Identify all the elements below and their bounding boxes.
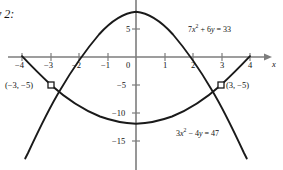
y-tick-label-neg15: −15 [112, 137, 125, 146]
point-marker-right [218, 82, 224, 88]
x-tick-label-1: 1 [163, 61, 167, 70]
x-tick-label-neg2: −2 [72, 61, 81, 70]
point-label-left: (−3, −5) [5, 81, 33, 90]
eq2-tail: = 47 [203, 129, 220, 138]
eq1-tail: = 33 [215, 25, 232, 34]
text-fragment: y 2: [0, 8, 14, 20]
point-marker-left [48, 82, 54, 88]
x-tick-label-2: 2 [191, 61, 195, 70]
y-tick-label-5: 5 [126, 25, 130, 34]
figure-canvas: y 2: −4 −3 −2 −1 0 1 2 3 4 x 5 −5 −10 −1… [0, 0, 283, 170]
x-axis-arrow [264, 53, 272, 60]
x-tick-label-neg4: −4 [15, 61, 24, 70]
eq2-mid: − 4 [186, 129, 199, 138]
x-tick-label-neg3: −3 [44, 61, 53, 70]
x-axis-label: x [272, 60, 276, 69]
x-tick-label-neg1: −1 [101, 61, 110, 70]
eq1-mid: + 6 [198, 25, 211, 34]
point-label-right: (3, −5) [226, 81, 249, 90]
y-tick-label-neg10: −10 [112, 109, 125, 118]
equation-label-parabola-up: 3x2 − 4y = 47 [176, 128, 219, 138]
equation-label-parabola-down: 7x2 + 6y = 33 [188, 24, 231, 34]
x-tick-label-4: 4 [248, 61, 252, 70]
y-tick-label-neg5: −5 [117, 81, 126, 90]
x-tick-label-zero: 0 [126, 61, 130, 70]
x-tick-label-3: 3 [220, 61, 224, 70]
